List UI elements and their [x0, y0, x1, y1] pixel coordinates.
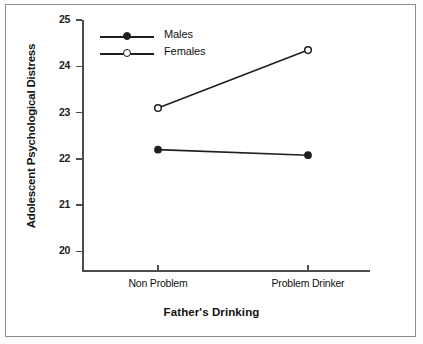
legend-item-males: Males	[100, 28, 220, 45]
y-axis-tick	[76, 112, 82, 114]
y-axis-tick-label: 24	[30, 59, 70, 71]
x-axis-tick-label: Problem Drinker	[243, 277, 373, 289]
y-axis-tick	[76, 19, 82, 21]
open-circle-icon	[123, 49, 131, 57]
x-axis-title: Father's Drinking	[0, 306, 423, 318]
y-axis-tick	[76, 158, 82, 160]
x-axis-tick-label: Non Problem	[93, 277, 223, 289]
figure: Adolescent Psychological Distress 252423…	[0, 0, 423, 344]
legend: Males Females	[100, 28, 220, 62]
y-axis-line	[82, 20, 84, 272]
y-axis-tick-label: 20	[30, 244, 70, 256]
y-axis-tick-label: 23	[30, 106, 70, 118]
legend-label-females: Females	[164, 45, 205, 57]
x-axis-tick	[157, 265, 159, 272]
y-axis-tick-label: 21	[30, 198, 70, 210]
x-axis-line	[82, 270, 370, 272]
y-axis-tick	[76, 66, 82, 68]
y-axis-tick	[76, 251, 82, 253]
y-axis-tick	[76, 204, 82, 206]
x-axis-tick	[307, 265, 309, 272]
filled-circle-icon	[123, 32, 131, 40]
y-axis-tick-label: 22	[30, 152, 70, 164]
y-axis-tick-label: 25	[30, 13, 70, 25]
legend-label-males: Males	[164, 28, 193, 40]
legend-item-females: Females	[100, 45, 220, 62]
y-axis-title: Adolescent Psychological Distress	[25, 11, 37, 261]
